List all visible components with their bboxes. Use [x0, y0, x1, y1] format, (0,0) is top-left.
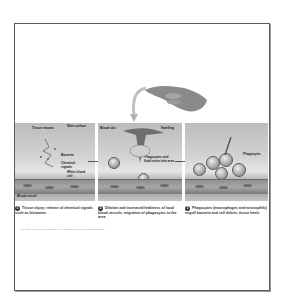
- hand-icon: [143, 82, 209, 116]
- copyright-credit: Copyright © 2009 Pearson Education, Inc.…: [20, 228, 105, 230]
- label-skin-surface: Skin surface: [67, 125, 86, 129]
- splinter-icon: [223, 137, 233, 155]
- label-chemical-signals: Chemical signals: [61, 162, 83, 169]
- caption-step-1: 1Tissue injury; release of chemical sign…: [15, 206, 95, 215]
- panel-tissue-injury: Tissue trauma Skin surface Bacteria Chem…: [15, 123, 95, 201]
- blood-vessel: [15, 179, 95, 194]
- blood-vessel: [185, 179, 268, 194]
- caption-step-2: 2Dilation and increased leakiness of loc…: [98, 206, 182, 219]
- label-white-blood-cell: White blood cell: [67, 171, 87, 178]
- tissue-trauma-illustration: [33, 137, 63, 169]
- blood-vessel: [98, 179, 182, 194]
- curved-arrow-icon: [128, 84, 148, 124]
- label-blood-clot: Blood clot: [100, 127, 116, 131]
- caption-text-1: Tissue injury; release of chemical signa…: [15, 206, 93, 215]
- panel-phagocytosis: Phagocytes: [185, 123, 268, 201]
- label-tissue-trauma: Tissue trauma: [32, 127, 54, 131]
- panel-vessel-dilation: Blood clot Swelling Phagocytes and fluid…: [98, 123, 182, 201]
- caption-text-2: Dilation and increased leakiness of loca…: [98, 206, 176, 219]
- label-blood-vessel: Blood vessel: [17, 195, 37, 199]
- label-phagocytes: Phagocytes: [243, 153, 261, 157]
- caption-text-3: Phagocytes (macrophages and neutrophils)…: [185, 206, 267, 215]
- caption-step-3: 3Phagocytes (macrophages and neutrophils…: [185, 206, 268, 215]
